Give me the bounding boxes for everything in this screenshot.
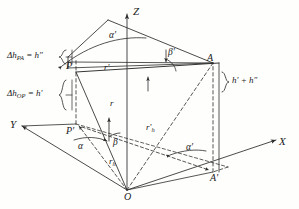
delta-h-pa-label: ΔhPA = h″ xyxy=(7,51,43,61)
segment-rh-subscript: h xyxy=(113,160,116,167)
x-axis-line xyxy=(127,140,276,190)
height-sum-label: h′ + h″ xyxy=(232,76,257,85)
apex-to-point-a xyxy=(108,20,213,63)
segment-r-label: r xyxy=(110,99,114,108)
y-axis-label: Y xyxy=(10,119,16,130)
angle-alpha-prime-top-label: α' xyxy=(109,31,116,41)
bracket-delta-h-pa xyxy=(59,50,66,64)
segment-r-line xyxy=(76,72,127,190)
segment-rh-prime-label: r'h xyxy=(146,123,155,133)
x-axis-label: X xyxy=(279,136,286,147)
segment-rh-label: rh xyxy=(109,157,116,167)
figure-root: Z X Y P P' A A' O α β α' α' β' r' r rh r… xyxy=(0,0,299,209)
arc-beta-base xyxy=(110,133,120,136)
segment-rh-prime-subscript: h xyxy=(151,126,154,133)
delta-h-pa-equals: = xyxy=(26,50,32,60)
segment-rh-line xyxy=(79,126,127,190)
line-o-to-aprime xyxy=(127,172,213,190)
angle-alpha-label: α xyxy=(78,142,83,152)
apex-to-left-edge xyxy=(68,20,108,57)
delta-h-op-value: h′ xyxy=(36,88,42,98)
delta-h-pa-text: Δh xyxy=(7,50,17,60)
point-a-label: A xyxy=(207,53,213,63)
bracket-height-sum xyxy=(222,72,229,92)
line-o-to-a xyxy=(127,63,213,190)
point-a-prime-label: A' xyxy=(210,173,218,183)
delta-h-op-subscript: OP xyxy=(17,92,26,99)
angle-beta-label: β xyxy=(113,138,118,148)
delta-h-pa-subscript: PA xyxy=(17,54,24,61)
delta-h-op-equals: = xyxy=(28,88,34,98)
arc-beta-prime xyxy=(166,59,176,71)
segment-r-prime-line xyxy=(76,63,219,72)
origin-label: O xyxy=(124,192,131,202)
delta-h-op-text: Δh xyxy=(7,88,17,98)
point-p-label: P xyxy=(66,61,72,71)
bracket-delta-h-op xyxy=(59,80,66,110)
diagram-canvas xyxy=(0,0,299,209)
delta-h-pa-value: h″ xyxy=(34,50,42,60)
upper-chord-lower xyxy=(68,63,213,68)
upper-triangle-group xyxy=(68,20,219,72)
delta-h-op-label: ΔhOP = h′ xyxy=(7,89,42,99)
point-p-prime-label: P' xyxy=(66,126,74,136)
segment-r-prime-label: r' xyxy=(104,63,109,72)
upper-chord-to-a xyxy=(68,62,213,63)
angle-beta-prime-label: β' xyxy=(168,48,175,58)
z-axis-label: Z xyxy=(133,6,139,17)
angle-alpha-prime-bottom-label: α' xyxy=(186,143,193,153)
